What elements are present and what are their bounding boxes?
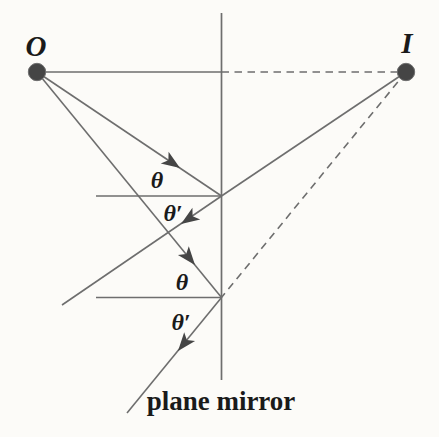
- image-label: I: [400, 27, 414, 59]
- theta-incident-1-label: θ: [151, 167, 164, 193]
- theta-incident-2-label: θ: [176, 269, 189, 295]
- extension-ray-2-to-image-dashed: [222, 72, 407, 298]
- image-dot: [397, 63, 414, 80]
- object-dot: [28, 63, 45, 80]
- extension-ray-1-to-image: [222, 72, 407, 196]
- incident-ray-1: [37, 72, 222, 196]
- incident-ray-2-arrowhead: [178, 246, 201, 269]
- incident-ray-1-arrowhead: [161, 152, 184, 174]
- plane-mirror-figure: O I θ θ′ θ θ′ plane mirror: [0, 0, 439, 437]
- theta-reflected-1-label: θ′: [163, 200, 182, 226]
- object-label: O: [26, 30, 47, 62]
- rays-and-mirror-lines: [37, 13, 406, 413]
- plane-mirror-diagram: O I θ θ′ θ θ′ plane mirror: [0, 0, 439, 437]
- reflected-ray-1: [62, 196, 222, 305]
- figure-labels: O I θ θ′ θ θ′ plane mirror: [26, 27, 415, 416]
- caption: plane mirror: [147, 386, 296, 416]
- theta-reflected-2-label: θ′: [171, 309, 190, 335]
